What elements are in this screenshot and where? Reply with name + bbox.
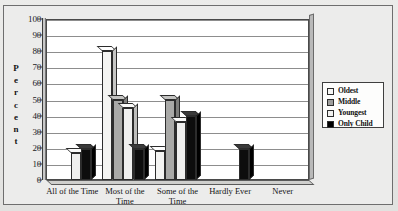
- chart-frame: P e r c e n t 0102030405060708090100 All…: [3, 5, 393, 205]
- x-axis-label-line: Time: [145, 196, 210, 206]
- legend-item-youngest[interactable]: Youngest: [327, 108, 380, 118]
- bar-group: [102, 19, 144, 180]
- legend-item-label: Oldest: [338, 87, 358, 95]
- legend-item-only-child[interactable]: Only Child: [327, 119, 380, 129]
- bar-only-child: [239, 149, 249, 180]
- bar-group: [50, 19, 92, 180]
- bar-group: [207, 19, 249, 180]
- bar-group: [260, 19, 302, 180]
- x-axis-labels: All of the TimeMost of theTimeSome of th…: [46, 186, 314, 211]
- legend-item-label: Only Child: [338, 120, 373, 128]
- bar-oldest: [155, 151, 165, 180]
- bar-side-face: [144, 145, 149, 180]
- legend-item-label: Youngest: [338, 109, 366, 117]
- bar-youngest: [71, 153, 81, 180]
- chart-page: P e r c e n t 0102030405060708090100 All…: [0, 0, 398, 211]
- legend-swatch-middle-icon: [327, 99, 334, 106]
- legend-item-middle[interactable]: Middle: [327, 97, 380, 107]
- legend-item-label: Middle: [338, 98, 360, 106]
- bars-layer: [46, 19, 309, 180]
- bar-only-child: [81, 149, 91, 180]
- chart-legend: OldestMiddleYoungestOnly Child: [322, 82, 384, 128]
- legend-swatch-youngest-icon: [327, 110, 334, 117]
- plot-depth-slab: [309, 13, 314, 180]
- x-axis-label-line: Never: [250, 186, 315, 196]
- legend-swatch-only-child-icon: [327, 121, 334, 128]
- bar-side-face: [249, 145, 254, 180]
- bar-side-face: [91, 145, 96, 180]
- bar-side-face: [196, 111, 201, 180]
- y-axis: 0102030405060708090100: [4, 6, 46, 186]
- legend-swatch-oldest-icon: [327, 88, 334, 95]
- bar-middle: [165, 100, 175, 181]
- bar-oldest: [102, 51, 112, 180]
- legend-item-oldest[interactable]: Oldest: [327, 86, 380, 96]
- bar-only-child: [134, 149, 144, 180]
- bar-middle: [113, 100, 123, 181]
- bar-youngest: [176, 122, 186, 180]
- bar-only-child: [186, 116, 196, 180]
- x-axis-category-label: Never: [250, 186, 315, 196]
- plot-floor-slab: [46, 180, 315, 185]
- bar-group: [155, 19, 197, 180]
